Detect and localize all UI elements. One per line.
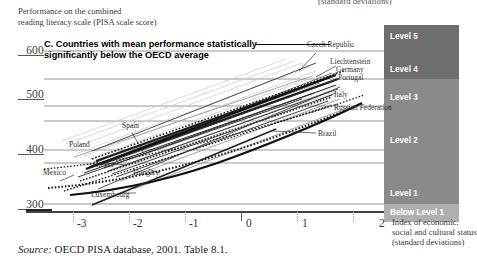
country-label-italy: Italy bbox=[334, 90, 348, 99]
level-band-1: Level 1 bbox=[384, 163, 459, 204]
x-tick-label-2: 2 bbox=[379, 217, 385, 229]
country-label-poland: Poland bbox=[69, 140, 90, 149]
country-label-luxembourg: Luxembourg bbox=[91, 190, 130, 199]
y-tick-label-400: 400 bbox=[18, 143, 44, 155]
x-axis-caption-line3: (standard deviations) bbox=[392, 237, 477, 247]
x-axis-caption-line2: social and cultural status bbox=[392, 227, 477, 237]
country-label-spain: Spain bbox=[122, 121, 139, 130]
level-band-2-label: Level 2 bbox=[390, 136, 418, 145]
series-line-luxembourg bbox=[70, 103, 362, 195]
level-band-3-label: Level 3 bbox=[390, 93, 418, 102]
country-label-brazil: Brazil bbox=[318, 129, 336, 138]
country-label-mexico: Mexico bbox=[43, 168, 66, 177]
level-band-4: Level 4 bbox=[384, 51, 459, 79]
country-label-portugal: Portugal bbox=[338, 73, 363, 82]
x-axis-line bbox=[26, 211, 384, 213]
source-label: Source: bbox=[18, 243, 52, 255]
country-label-russian-federation: Russian Federation bbox=[334, 103, 392, 112]
x-tick-label-1: 1 bbox=[302, 217, 308, 229]
x-tick-mark--1 bbox=[185, 212, 186, 221]
y-tick-label-600: 600 bbox=[18, 44, 44, 56]
level-band-3: Level 3 bbox=[384, 79, 459, 121]
x-tick-label--1: -1 bbox=[189, 217, 199, 229]
panel-title-line2: significantly below the OECD average bbox=[44, 50, 257, 61]
x-axis-caption: Index of economic, social and cultural s… bbox=[392, 217, 477, 248]
source-note: Source: OECD PISA database, 2001. Table … bbox=[18, 243, 227, 255]
top-right-caption: (standard deviations) bbox=[318, 0, 392, 6]
panel-title-line1: C. Countries with mean performance stati… bbox=[44, 39, 257, 50]
background-trend-lines bbox=[62, 59, 344, 171]
country-label-greece: Greece bbox=[93, 160, 114, 169]
x-tick-mark-0 bbox=[241, 212, 242, 221]
level-band-1-label: Level 1 bbox=[390, 189, 418, 198]
panel-title: C. Countries with mean performance stati… bbox=[44, 39, 257, 62]
plot-area bbox=[44, 41, 384, 210]
x-tick-mark-1 bbox=[297, 212, 298, 221]
level-band-below-1-label: Below Level 1 bbox=[390, 208, 444, 217]
x-tick-label--2: -2 bbox=[133, 217, 143, 229]
x-tick-label-0: 0 bbox=[246, 217, 252, 229]
proficiency-level-bands: Level 5 Level 4 Level 3 Level 2 Level 1 … bbox=[384, 25, 459, 211]
y-tick-label-500: 500 bbox=[18, 88, 44, 100]
level-band-4-label: Level 4 bbox=[390, 65, 418, 74]
source-text: OECD PISA database, 2001. Table 8.1. bbox=[55, 243, 228, 255]
y-axis-caption: Performance on the combined reading lite… bbox=[18, 6, 157, 27]
y-axis-caption-line1: Performance on the combined bbox=[18, 6, 157, 17]
level-band-5-label: Level 5 bbox=[390, 32, 418, 41]
level-band-2: Level 2 bbox=[384, 121, 459, 163]
x-tick-mark--3 bbox=[73, 212, 74, 221]
x-tick-mark-2 bbox=[353, 212, 354, 221]
x-tick-label--3: -3 bbox=[77, 217, 87, 229]
level-band-5: Level 5 bbox=[384, 25, 459, 51]
x-axis-caption-line1: Index of economic, bbox=[392, 217, 477, 227]
y-axis-caption-line2: reading literacy scale (PISA scale score… bbox=[18, 17, 157, 28]
scatter-lines-svg bbox=[44, 41, 384, 210]
x-tick-mark--2 bbox=[129, 212, 130, 221]
panel-title-leader-line bbox=[256, 44, 330, 45]
country-label-hungary: Hungary bbox=[133, 168, 159, 177]
